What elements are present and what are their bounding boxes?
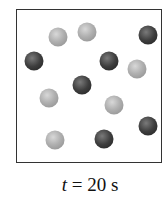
- dark-particle-icon: [139, 26, 158, 45]
- light-particle-icon: [128, 60, 147, 79]
- light-particle-icon: [49, 28, 68, 47]
- time-caption: t = 20 s: [0, 174, 168, 196]
- dark-particle-icon: [139, 117, 158, 136]
- dark-particle-icon: [73, 76, 92, 95]
- time-value: 20 s: [87, 174, 118, 195]
- dark-particle-icon: [95, 130, 114, 149]
- equals-sign: =: [67, 174, 87, 195]
- light-particle-icon: [46, 131, 65, 150]
- light-particle-icon: [105, 96, 124, 115]
- dark-particle-icon: [25, 52, 44, 71]
- light-particle-icon: [40, 89, 59, 108]
- dark-particle-icon: [100, 52, 119, 71]
- light-particle-icon: [78, 23, 97, 42]
